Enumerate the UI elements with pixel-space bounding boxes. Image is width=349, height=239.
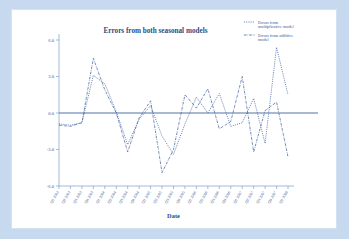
x-tick-label: Q2 2005 [153,190,163,204]
axes-group [59,34,294,186]
x-tick-label: Q4 2007 [267,190,277,204]
x-tick-label: Q4 2006 [221,190,231,204]
x-tick-label: Q1 2003 [50,190,60,204]
x-tick-label: Q1 2004 [95,190,105,204]
plot-container: Errors from both seasonal models 6.03.00… [12,10,338,230]
x-tick-label: Q2 2003 [61,190,71,204]
y-tick-label: 3.0 [48,74,54,79]
x-axis-title-group: Date [167,212,180,219]
x-tick-label: Q3 2004 [118,190,128,204]
errors-line-chart: Errors from both seasonal models 6.03.00… [12,10,338,230]
y-tick-label: 6.0 [48,38,54,43]
chart-legend: Errors frommultiplicative modelErrors fr… [244,20,294,43]
x-tick-label: Q3 2007 [256,190,266,204]
x-tick-label: Q1 2007 [233,190,243,204]
x-tick-label: Q1 2006 [187,190,197,204]
x-tick-label: Q4 2004 [130,190,140,204]
y-axis-ticks: 6.03.00.0-3.0-6.0 [47,38,59,189]
chart-window: Errors from both seasonal models 6.03.00… [0,0,349,239]
x-tick-label: Q2 2006 [198,190,208,204]
y-tick-label: -3.0 [47,147,55,152]
x-tick-label: Q3 2005 [164,190,174,204]
x-tick-label: Q3 2006 [210,190,220,204]
series-line [59,58,288,172]
x-tick-label: Q3 2003 [73,190,83,204]
x-tick-label: Q1 2005 [141,190,151,204]
x-tick-label: Q1 2008 [279,190,289,204]
y-tick-label: 0.0 [48,111,54,116]
axis-lines [59,34,294,186]
legend-label: model [258,37,270,42]
chart-title-group: Errors from both seasonal models [104,27,208,35]
x-axis-title: Date [167,212,180,219]
y-tick-label: -6.0 [47,184,55,189]
series-line [59,47,288,154]
data-series-group [59,47,288,172]
chart-card: Errors from both seasonal models 6.03.00… [11,9,337,229]
x-axis-ticks: Q1 2003Q2 2003Q3 2003Q4 2003Q1 2004Q2 20… [50,186,289,204]
x-tick-label: Q4 2003 [84,190,94,204]
chart-title: Errors from both seasonal models [104,27,208,35]
legend-label: multiplicative model [258,24,294,29]
x-tick-label: Q2 2004 [107,190,117,204]
x-tick-label: Q2 2007 [244,190,254,204]
x-tick-label: Q4 2005 [176,190,186,204]
